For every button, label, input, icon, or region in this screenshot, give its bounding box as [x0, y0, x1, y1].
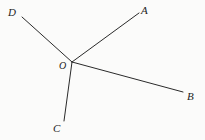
ray-OB: [72, 62, 183, 92]
ray-OD: [22, 17, 72, 62]
geometry-figure: A B C D O: [0, 0, 205, 140]
point-label-o: O: [59, 61, 66, 71]
ray-OA: [72, 13, 139, 62]
point-label-c: C: [53, 123, 60, 134]
point-label-a: A: [141, 5, 148, 16]
ray-diagram-canvas: [0, 0, 205, 140]
point-label-b: B: [187, 91, 194, 102]
point-label-d: D: [8, 7, 16, 18]
